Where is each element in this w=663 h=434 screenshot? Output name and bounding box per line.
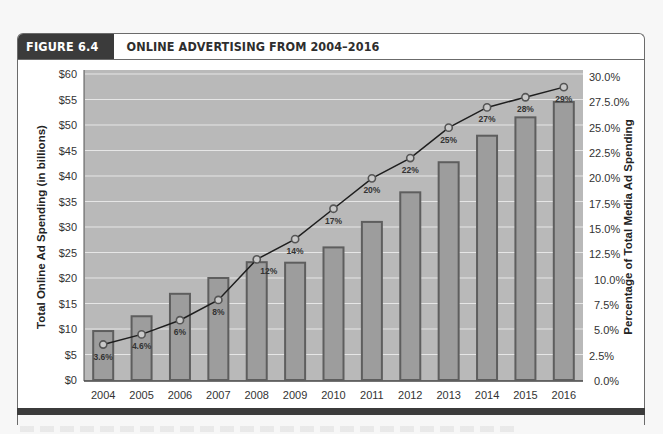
data-label: 4.6% [132,341,152,351]
bar-2016 [554,102,574,380]
data-point-marker [368,175,375,182]
x-tick-label: 2012 [398,389,422,401]
chart: 3.6%4.6%6%8%12%14%17%20%22%25%27%28%29% … [0,0,663,434]
data-label: 12% [260,266,277,276]
y2-tick-label: 27.5.0% [589,96,630,108]
left-axis-label: Total Online Ad Spending (in billions) [35,125,47,329]
y-tick-label: $60 [59,68,77,80]
data-label: 25% [440,135,457,145]
bar-2011 [362,222,382,380]
y-tick-label: $55 [59,94,77,106]
data-label: 27% [479,114,496,124]
frame-edge [17,415,18,425]
data-point-marker [445,124,452,131]
bar-2015 [515,117,535,380]
frame-edge [644,415,645,425]
x-tick-label: 2008 [244,389,268,401]
bar-2012 [400,192,420,380]
x-tick-label: 2016 [552,389,576,401]
y2-tick-label: 12.5% [589,248,620,260]
y2-tick-label: 25.0% [589,122,620,134]
data-point-marker [407,154,414,161]
bar-2008 [247,262,267,380]
data-point-marker [176,317,183,324]
y-tick-label: $50 [59,119,77,131]
x-tick-label: 2013 [436,389,460,401]
y-tick-label: $30 [59,221,77,233]
bar-2009 [285,263,305,380]
y2-tick-label: 30.0% [589,71,620,83]
data-label: 29% [555,94,572,104]
data-point-marker [522,94,529,101]
figure-footer-bar [17,408,645,415]
y-tick-label: $15 [59,298,77,310]
y2-tick-label: 2.5% [589,350,614,362]
y-tick-label: $35 [59,196,77,208]
bar-2014 [477,136,497,380]
data-point-marker [560,84,567,91]
y-tick-label: $5 [65,349,77,361]
right-axis-label: Percentage of Total Media Ad Spending [622,119,634,334]
left-axis-ticks: $0$5$10$15$20$25$30$35$40$45$50$55$60 [59,68,77,386]
y-tick-label: $40 [59,170,77,182]
y2-tick-label: 22.5% [589,147,620,159]
data-label: 14% [287,246,304,256]
y2-tick-label: 15.0% [589,223,620,235]
data-label: 20% [363,185,380,195]
x-axis-ticks: 2004200520062007200820092010201120122013… [91,389,576,401]
x-tick-label: 2009 [283,389,307,401]
data-label: 17% [325,216,342,226]
x-tick-label: 2011 [360,389,384,401]
y2-tick-label: 17.5% [589,198,620,210]
data-point-marker [138,331,145,338]
data-label: 3.6% [94,352,114,362]
data-point-marker [292,236,299,243]
y-tick-label: $20 [59,272,77,284]
data-label: 8% [212,307,225,317]
caption-text-faint [20,426,520,432]
x-tick-label: 2015 [513,389,537,401]
y-tick-label: $10 [59,323,77,335]
y-tick-label: $45 [59,145,77,157]
x-tick-label: 2007 [206,389,230,401]
x-tick-label: 2010 [321,389,345,401]
data-point-marker [253,256,260,263]
bar-2013 [439,162,459,380]
y-tick-label: $0 [65,374,77,386]
data-label: 22% [402,165,419,175]
x-tick-label: 2014 [475,389,499,401]
data-point-marker [330,205,337,212]
data-point-marker [100,341,107,348]
y2-tick-label: 7.5% [594,299,619,311]
data-label: 6% [174,327,187,337]
y2-tick-label: 20.0% [589,172,620,184]
x-tick-label: 2006 [168,389,192,401]
data-point-marker [215,296,222,303]
y2-tick-label: 0.0% [594,375,619,387]
y2-tick-label: 10.0% [594,274,625,286]
y2-tick-label: 5.0% [594,324,619,336]
data-point-marker [483,104,490,111]
y-tick-label: $25 [59,247,77,259]
x-tick-label: 2005 [129,389,153,401]
data-label: 28% [517,104,534,114]
x-tick-label: 2004 [91,389,115,401]
bar-2010 [324,247,344,380]
